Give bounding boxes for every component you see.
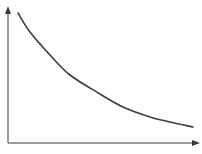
x-axis <box>8 140 200 146</box>
x-axis-arrow-icon <box>192 140 200 146</box>
decay-curve <box>18 13 193 127</box>
y-axis-arrow-icon <box>5 6 11 14</box>
decay-curve-diagram <box>0 0 202 154</box>
y-axis <box>5 6 11 143</box>
